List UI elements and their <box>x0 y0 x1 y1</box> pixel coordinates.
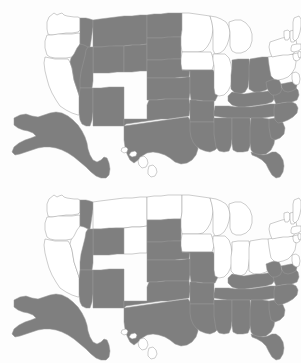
state-nm <box>93 87 124 126</box>
state-hi <box>148 165 157 177</box>
state-vt <box>284 212 290 222</box>
state-wi <box>210 198 230 236</box>
state-hi <box>121 147 128 153</box>
map-panel-top <box>0 0 301 181</box>
state-tx <box>124 299 198 346</box>
state-in <box>231 241 250 276</box>
state-wa <box>47 13 80 35</box>
state-az <box>79 88 93 126</box>
state-ks <box>147 77 190 100</box>
map-panel-bottom <box>0 182 301 363</box>
state-co <box>124 226 147 254</box>
state-wa <box>47 195 80 217</box>
state-nd <box>147 13 182 38</box>
state-ri <box>298 233 301 240</box>
state-tx <box>124 117 198 164</box>
state-ms <box>214 118 232 152</box>
state-vt <box>284 30 290 40</box>
state-me <box>293 198 301 223</box>
state-ks <box>147 259 190 282</box>
state-sd <box>147 37 181 60</box>
state-mt <box>93 197 147 229</box>
state-wy <box>93 228 124 255</box>
state-hi <box>138 338 148 350</box>
state-nd <box>147 195 182 220</box>
state-mi <box>229 202 252 235</box>
state-nm <box>93 269 124 308</box>
choropleth-figure <box>0 0 301 363</box>
state-mt <box>93 15 147 47</box>
state-il <box>213 236 232 278</box>
state-al <box>232 300 251 334</box>
state-wy <box>93 46 124 73</box>
state-me <box>293 16 301 41</box>
state-nc <box>274 102 298 123</box>
state-hi <box>121 329 128 335</box>
state-ia <box>181 52 214 70</box>
state-fl <box>251 152 284 178</box>
state-hi <box>148 347 157 359</box>
state-co <box>124 44 147 72</box>
state-fl <box>251 334 284 360</box>
state-ms <box>214 300 232 334</box>
state-hi <box>138 156 148 168</box>
state-mi <box>229 20 252 53</box>
state-mn <box>181 13 213 52</box>
state-nj <box>292 72 300 85</box>
state-ar <box>190 282 214 304</box>
state-ia <box>181 234 214 252</box>
state-nc <box>274 284 298 305</box>
state-wi <box>210 16 230 54</box>
state-il <box>213 54 232 96</box>
state-mn <box>181 195 213 234</box>
us-map-top <box>0 0 301 181</box>
state-in <box>231 59 250 94</box>
us-map-bottom <box>0 182 301 363</box>
state-sd <box>147 219 181 242</box>
state-ma <box>291 44 301 52</box>
state-az <box>79 270 93 308</box>
state-ma <box>291 226 301 234</box>
state-nj <box>292 254 300 267</box>
state-ar <box>190 100 214 122</box>
state-al <box>232 118 251 152</box>
state-ri <box>298 51 301 58</box>
